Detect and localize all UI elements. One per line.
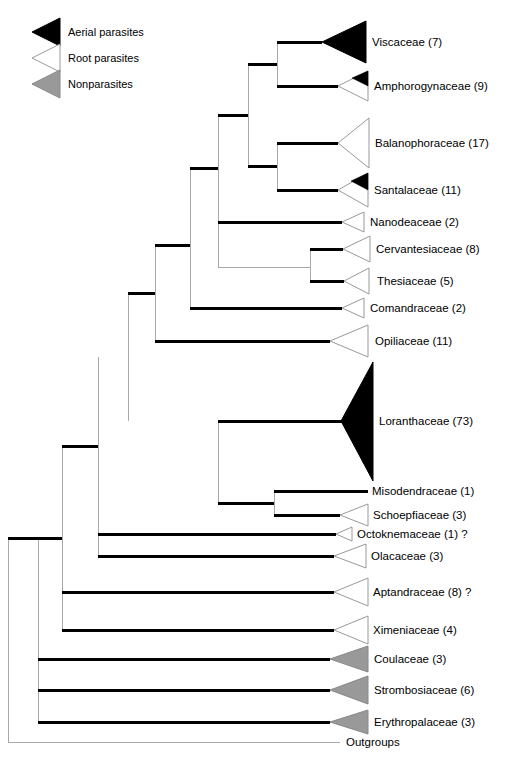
tip-triangle-coulaceae[interactable] (330, 646, 368, 672)
tip-label-aptandraceae: Aptandraceae (8) ? (373, 586, 471, 598)
tip-label-comandraceae: Comandraceae (2) (370, 302, 466, 314)
tip-label-thesiaceae: Thesiaceae (5) (377, 275, 454, 287)
tip-label-ximeniaceae: Ximeniaceae (4) (373, 624, 457, 636)
tip-triangle-opiliaceae[interactable] (330, 325, 368, 357)
tree-thin-branches (8, 267, 340, 742)
tip-triangle-thesiaceae[interactable] (344, 268, 369, 294)
tip-label-misodendraceae: Misodendraceae (1) (372, 485, 474, 497)
tip-triangle-viscaceae[interactable] (322, 21, 366, 63)
tip-label-coulaceae: Coulaceae (3) (374, 653, 446, 665)
tip-label-santalaceae: Santalaceae (11) (374, 184, 461, 196)
tip-label-schoepfiaceae: Schoepfiaceae (3) (373, 509, 467, 521)
tip-triangle-balanophoraceae[interactable] (338, 118, 369, 168)
tip-label-erythropalaceae: Erythropalaceae (3) (374, 716, 475, 728)
tip-label-nanodeaceae: Nanodeaceae (2) (370, 216, 459, 228)
tip-triangle-loranthaceae[interactable] (341, 362, 373, 481)
triangle-white-icon (32, 44, 60, 72)
tip-label-balanophoraceae: Balanophoraceae (17) (375, 137, 489, 149)
figure-canvas: Aerial parasites Root parasites Nonparas… (0, 0, 511, 762)
tree-vertical-connectors (8, 42, 310, 742)
tip-triangle-octoknemaceae[interactable] (336, 527, 352, 541)
triangle-gray-icon (32, 70, 60, 98)
legend-label-nonparasite: Nonparasites (68, 78, 133, 90)
legend: Aerial parasites Root parasites Nonparas… (32, 18, 144, 98)
tip-label-loranthaceae: Loranthaceae (73) (379, 415, 473, 427)
tip-label-strombosiaceae: Strombosiaceae (6) (374, 684, 475, 696)
tip-label-viscaceae: Viscaceae (7) (372, 36, 442, 48)
tip-label-cervantesiaceae: Cervantesiaceae (8) (376, 243, 480, 255)
tip-label-octoknemaceae: Octoknemaceae (1) ? (357, 528, 468, 540)
tip-label-amphorogynaceae: Amphorogynaceae (9) (374, 80, 488, 92)
tip-triangle-aptandraceae[interactable] (334, 578, 368, 606)
tip-label-outgroups: Outgroups (346, 736, 400, 748)
tip-label-opiliaceae: Opiliaceae (11) (375, 335, 452, 347)
tip-triangle-strombosiaceae[interactable] (330, 676, 368, 704)
legend-label-aerial: Aerial parasites (68, 26, 144, 38)
triangle-black-icon (32, 18, 60, 46)
tip-triangles (322, 21, 373, 734)
phylogeny-svg: Aerial parasites Root parasites Nonparas… (0, 0, 511, 762)
tip-triangle-erythropalaceae[interactable] (330, 710, 368, 734)
tip-triangle-ximeniaceae[interactable] (334, 616, 368, 644)
tip-label-olacaceae: Olacaceae (3) (371, 550, 443, 562)
legend-label-root: Root parasites (68, 52, 139, 64)
tip-triangle-nanodeaceae[interactable] (342, 212, 364, 232)
tip-triangle-comandraceae[interactable] (342, 298, 364, 318)
tip-triangle-olacaceae[interactable] (334, 544, 366, 568)
tip-triangle-cervantesiaceae[interactable] (343, 236, 370, 262)
tip-triangle-schoepfiaceae[interactable] (340, 504, 368, 526)
